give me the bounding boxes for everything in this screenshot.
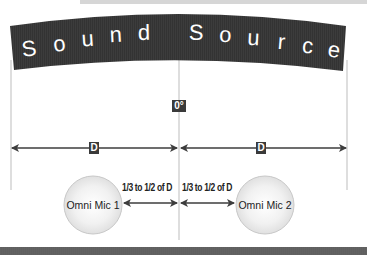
bottom-border-bar — [0, 247, 367, 255]
banner-letter: o — [52, 30, 67, 56]
mic2-spacing-label: 1/3 to 1/2 of D — [182, 182, 232, 193]
right-distance-label: D — [256, 142, 266, 154]
zero-degree-marker: 0° — [172, 100, 186, 112]
mic1-spacing-label: 1/3 to 1/2 of D — [122, 182, 172, 193]
left-distance-label: D — [89, 142, 99, 154]
banner-letter: u — [247, 25, 261, 51]
banner-letter: S — [189, 20, 204, 45]
diagram-canvas: S o u n d S o u r c e — [0, 0, 367, 255]
omni-mic-2-label: Omni Mic 2 — [235, 199, 295, 211]
banner-letter: d — [138, 20, 151, 45]
banner-letter: n — [109, 22, 123, 48]
banner-letter: u — [80, 26, 94, 52]
omni-mic-1-label: Omni Mic 1 — [63, 199, 123, 211]
banner-letter: o — [219, 22, 232, 47]
